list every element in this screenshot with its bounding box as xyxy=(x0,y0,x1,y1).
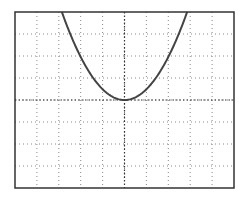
parabola-chart xyxy=(0,0,242,198)
